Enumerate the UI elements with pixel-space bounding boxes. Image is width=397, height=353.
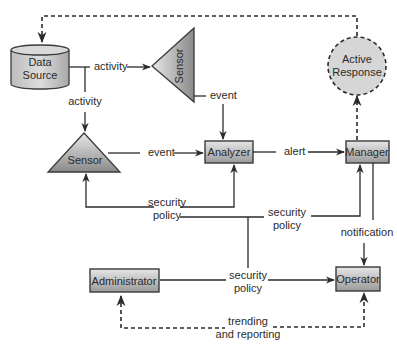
edge-activity-to-sensor-top: activity <box>69 60 150 72</box>
edge-security-policy-sensor-analyzer: security policy <box>86 165 234 221</box>
analyzer-label: Analyzer <box>208 146 251 158</box>
ids-architecture-diagram: Data Source activity activity Sensor eve… <box>0 0 397 353</box>
sensor-top-label: Sensor <box>173 48 185 83</box>
administrator-label: Administrator <box>92 275 157 287</box>
edge-security-policy-manager: security policy <box>180 165 360 268</box>
data-source-label-2: Source <box>23 69 58 81</box>
manager-label: Manager <box>345 146 389 158</box>
node-sensor-top[interactable]: Sensor <box>152 28 194 102</box>
edge-label-alert: alert <box>284 145 305 157</box>
sensor-mid-label: Sensor <box>68 154 103 166</box>
data-source-label-1: Data <box>28 56 52 68</box>
edge-label-activity-1: activity <box>94 60 128 72</box>
node-administrator[interactable]: Administrator <box>90 269 159 292</box>
edge-label-policy-3b: policy <box>234 282 263 294</box>
edge-label-trending-2: and reporting <box>216 328 281 340</box>
edge-label-activity-2: activity <box>68 95 102 107</box>
active-response-label-1: Active <box>342 53 372 65</box>
edge-label-event-2: event <box>148 146 175 158</box>
edge-event-from-sensor-top: event <box>194 89 237 139</box>
edge-label-policy-2a: security <box>268 206 306 218</box>
edge-label-policy-1a: security <box>148 196 186 208</box>
edge-label-policy-1b: policy <box>153 209 182 221</box>
node-operator[interactable]: Operator <box>336 267 380 291</box>
edge-activity-to-sensor-mid: activity <box>68 67 102 131</box>
edge-label-trending-1: trending <box>228 315 268 327</box>
edge-active-response-feedback <box>42 16 357 140</box>
edge-label-policy-3a: security <box>229 269 267 281</box>
edge-trending-reporting: trending and reporting <box>121 293 364 340</box>
node-analyzer[interactable]: Analyzer <box>205 141 253 163</box>
edge-label-notification: notification <box>341 226 394 238</box>
edge-alert: alert <box>253 145 344 157</box>
node-manager[interactable]: Manager <box>345 141 389 163</box>
edge-notification: notification <box>341 163 394 265</box>
node-data-source[interactable]: Data Source <box>11 45 69 89</box>
edge-label-event-1: event <box>210 89 237 101</box>
edge-label-policy-2b: policy <box>273 219 302 231</box>
operator-label: Operator <box>336 273 380 285</box>
node-active-response[interactable]: Active Response <box>328 37 386 95</box>
edge-event-from-sensor-mid: event <box>108 146 203 158</box>
edge-security-policy-operator: security policy <box>160 269 334 294</box>
active-response-label-2: Response <box>332 66 382 78</box>
